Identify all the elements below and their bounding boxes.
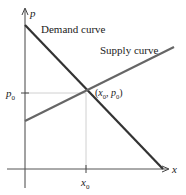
x-axis-label: x	[171, 163, 177, 175]
supply-demand-diagram: p x Demand curve Supply curve p0 x0 (x0,…	[0, 0, 186, 195]
x0-label: x0	[80, 176, 90, 191]
demand-curve-label: Demand curve	[41, 23, 106, 35]
p0-label: p0	[5, 87, 16, 102]
y-axis-label: p	[29, 7, 36, 19]
supply-curve	[25, 47, 174, 121]
equilibrium-point-label: (x0, p0)	[95, 87, 123, 100]
supply-curve-label: Supply curve	[100, 44, 158, 56]
